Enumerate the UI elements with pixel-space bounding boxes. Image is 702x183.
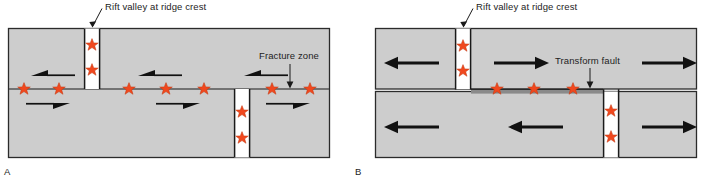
panel-tag-b: B xyxy=(355,166,361,177)
lithosphere-block-b-lower xyxy=(376,92,697,158)
rift-valley-lower-b xyxy=(603,89,619,157)
panel-tag-a: A xyxy=(4,166,10,177)
panel-b-figure xyxy=(351,0,702,183)
label-rift-valley-b: Rift valley at ridge crest xyxy=(476,1,577,12)
label-fracture-zone: Fracture zone xyxy=(259,50,319,61)
panel-b: Rift valley at ridge crest Transform fau… xyxy=(351,0,702,183)
rift-valley-lower-a xyxy=(234,89,250,158)
rift-valley-upper-b xyxy=(455,29,471,90)
label-rift-valley-a: Rift valley at ridge crest xyxy=(105,1,206,12)
label-transform-fault: Transform fault xyxy=(555,55,620,66)
panel-a-figure xyxy=(0,0,351,183)
rift-valley-leader-arrowhead-b xyxy=(460,21,467,27)
rift-valley-upper-a xyxy=(84,29,100,90)
rift-valley-leader-arrowhead-a xyxy=(89,21,96,27)
panel-a: Rift valley at ridge crest Fracture zone… xyxy=(0,0,351,183)
